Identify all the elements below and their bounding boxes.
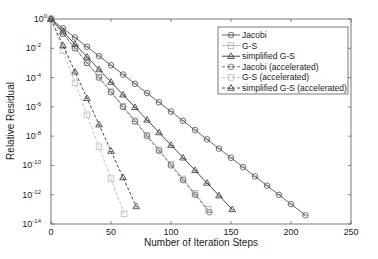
x-tick-label: 150 <box>223 227 238 237</box>
y-axis-title: Relative Residual <box>5 82 16 160</box>
series-g-s-accelerated <box>48 16 127 216</box>
y-tick-label: 10-12 <box>22 189 41 200</box>
series-simplified-g-s-accelerated <box>48 16 140 209</box>
legend: JacobiG-Ssimplified G-SJacobi (accelerat… <box>218 27 348 94</box>
series-jacobi-accelerated <box>48 16 212 215</box>
y-tick-label: 10-14 <box>22 218 41 229</box>
legend-label: G-S (accelerated) <box>242 72 309 82</box>
y-tick-label: 10-10 <box>22 159 41 170</box>
x-tick-label: 250 <box>343 227 358 237</box>
y-tick-label: 10-2 <box>26 42 42 53</box>
y-tick-label: 10-4 <box>26 72 42 83</box>
x-tick-label: 50 <box>106 227 116 237</box>
x-tick-label: 0 <box>48 227 53 237</box>
legend-label: G-S <box>242 41 257 51</box>
legend-label: simplified G-S <box>242 51 295 61</box>
y-tick-label: 100 <box>34 13 48 24</box>
legend-label: Jacobi (accelerated) <box>242 62 319 72</box>
y-tick-label: 10-6 <box>26 101 42 112</box>
y-tick-label: 10-8 <box>26 130 42 141</box>
convergence-chart: 050100150200250 10010-210-410-610-810-10… <box>0 0 378 259</box>
x-tick-label: 100 <box>163 227 178 237</box>
x-tick-label: 200 <box>283 227 298 237</box>
x-axis-title: Number of Iteration Steps <box>144 237 258 248</box>
series-simplified-g-s <box>48 16 236 212</box>
legend-label: Jacobi <box>242 30 267 40</box>
legend-label: simplified G-S (accelerated) <box>242 83 347 93</box>
